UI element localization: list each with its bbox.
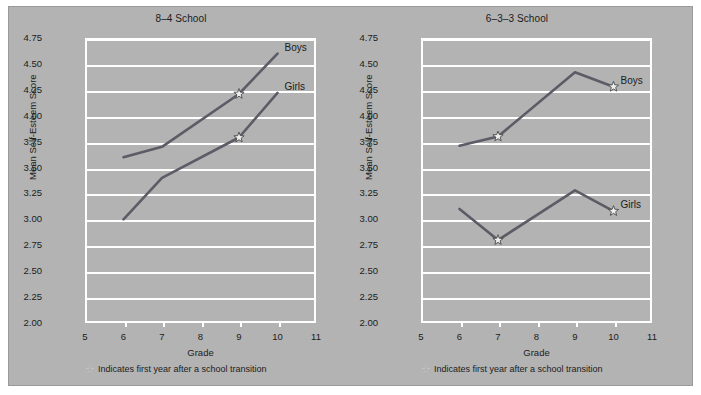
y-tick-label: 4.00 xyxy=(2,110,42,121)
x-tick xyxy=(163,321,165,327)
y-tick-label: 4.75 xyxy=(2,32,42,43)
y-tick-label: 3.75 xyxy=(2,136,42,147)
x-tick-label: 7 xyxy=(483,331,513,342)
gridline xyxy=(87,117,314,119)
chart-8-4-school: 8–4 School Mean Self-Esteem Score Grade … xyxy=(11,7,351,387)
series-label-boys: Boys xyxy=(621,75,643,86)
x-axis-title: Grade xyxy=(421,347,652,358)
x-tick-label: 8 xyxy=(186,331,216,342)
x-tick-label: 6 xyxy=(445,331,475,342)
series-label-girls: Girls xyxy=(621,199,642,210)
star-icon: ☆ xyxy=(421,363,431,376)
x-tick xyxy=(499,321,501,327)
y-tick-label: 2.50 xyxy=(338,265,378,276)
gridline xyxy=(87,220,314,222)
y-tick-label: 2.75 xyxy=(2,239,42,250)
gridline xyxy=(87,194,314,196)
x-tick-label: 5 xyxy=(70,331,100,342)
series-label-girls: Girls xyxy=(285,81,306,92)
y-tick-label: 2.00 xyxy=(338,317,378,328)
y-tick-label: 2.25 xyxy=(338,291,378,302)
y-tick-label: 3.00 xyxy=(2,213,42,224)
gridline xyxy=(87,246,314,248)
x-tick-label: 5 xyxy=(406,331,436,342)
figure-panel: 8–4 School Mean Self-Esteem Score Grade … xyxy=(8,6,693,386)
x-tick-label: 10 xyxy=(263,331,293,342)
footnote-text: Indicates first year after a school tran… xyxy=(98,364,267,374)
y-tick-label: 3.50 xyxy=(2,162,42,173)
y-tick-label: 3.00 xyxy=(338,213,378,224)
x-tick-label: 9 xyxy=(560,331,590,342)
gridline xyxy=(87,272,314,274)
gridline xyxy=(423,65,650,67)
gridlines-layer xyxy=(87,40,314,321)
gridline xyxy=(423,39,650,41)
y-tick-label: 3.75 xyxy=(338,136,378,147)
gridlines-layer xyxy=(423,40,650,321)
chart-title: 6–3–3 School xyxy=(347,13,687,24)
gridline xyxy=(87,39,314,41)
y-tick-label: 4.75 xyxy=(338,32,378,43)
footnote: ☆Indicates first year after a school tra… xyxy=(85,363,335,376)
x-tick xyxy=(461,321,463,327)
gridline xyxy=(423,246,650,248)
gridline xyxy=(423,143,650,145)
x-tick xyxy=(279,321,281,327)
x-axis-title: Grade xyxy=(85,347,316,358)
gridline xyxy=(423,117,650,119)
y-tick-label: 4.00 xyxy=(338,110,378,121)
y-tick-label: 4.50 xyxy=(338,58,378,69)
y-tick-label: 2.25 xyxy=(2,291,42,302)
plot-area xyxy=(85,38,316,323)
gridline xyxy=(87,143,314,145)
y-tick-label: 4.25 xyxy=(2,84,42,95)
y-tick-label: 2.50 xyxy=(2,265,42,276)
figure-root: 8–4 School Mean Self-Esteem Score Grade … xyxy=(0,0,701,395)
series-label-boys: Boys xyxy=(285,42,307,53)
x-tick-label: 10 xyxy=(599,331,629,342)
gridline xyxy=(87,65,314,67)
gridline xyxy=(423,220,650,222)
chart-6-3-3-school: 6–3–3 School Mean Self-Esteem Score Grad… xyxy=(347,7,687,387)
gridline xyxy=(87,298,314,300)
star-icon: ☆ xyxy=(85,363,95,376)
y-tick-label: 3.25 xyxy=(2,187,42,198)
x-tick-label: 9 xyxy=(224,331,254,342)
x-tick xyxy=(576,321,578,327)
x-tick-label: 6 xyxy=(109,331,139,342)
x-tick-label: 8 xyxy=(522,331,552,342)
x-tick xyxy=(202,321,204,327)
x-tick xyxy=(125,321,127,327)
y-tick-label: 3.50 xyxy=(338,162,378,173)
gridline xyxy=(423,91,650,93)
gridline xyxy=(87,91,314,93)
footnote: ☆Indicates first year after a school tra… xyxy=(421,363,671,376)
chart-title: 8–4 School xyxy=(11,13,351,24)
footnote-text: Indicates first year after a school tran… xyxy=(434,364,603,374)
gridline xyxy=(423,194,650,196)
x-tick-label: 11 xyxy=(301,331,331,342)
y-tick-label: 4.50 xyxy=(2,58,42,69)
x-tick xyxy=(240,321,242,327)
x-tick-label: 11 xyxy=(637,331,667,342)
gridline xyxy=(423,169,650,171)
y-tick-label: 2.00 xyxy=(2,317,42,328)
x-tick xyxy=(615,321,617,327)
y-tick-label: 3.25 xyxy=(338,187,378,198)
plot-area xyxy=(421,38,652,323)
y-tick-label: 4.25 xyxy=(338,84,378,95)
gridline xyxy=(87,169,314,171)
gridline xyxy=(423,272,650,274)
gridline xyxy=(423,298,650,300)
x-tick xyxy=(538,321,540,327)
x-tick-label: 7 xyxy=(147,331,177,342)
y-tick-label: 2.75 xyxy=(338,239,378,250)
